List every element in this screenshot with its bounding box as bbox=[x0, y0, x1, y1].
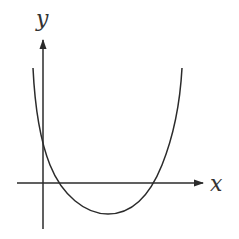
function-curve bbox=[33, 68, 182, 214]
y-axis-label: y bbox=[35, 6, 49, 31]
function-graph: x y bbox=[0, 0, 239, 239]
x-axis-label: x bbox=[210, 171, 223, 196]
